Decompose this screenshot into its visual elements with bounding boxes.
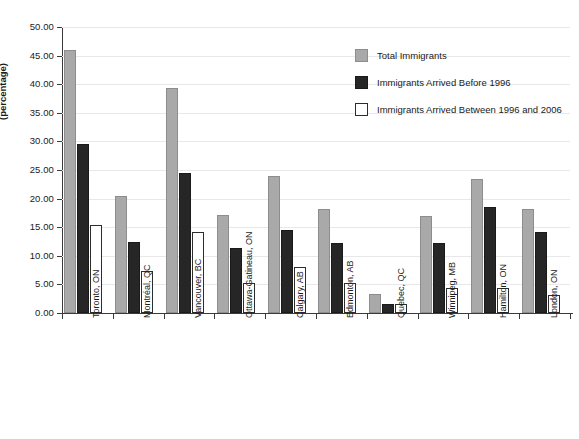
y-axis-tick-label: 30.00	[8, 135, 54, 146]
bar	[420, 216, 432, 313]
x-axis-tick-mark	[418, 313, 419, 319]
y-axis-tick-label: 20.00	[8, 193, 54, 204]
legend-swatch-icon	[355, 49, 368, 62]
x-axis-tick-mark	[468, 313, 469, 319]
y-axis-tick-label: 25.00	[8, 164, 54, 175]
x-axis-tick-mark	[113, 313, 114, 319]
y-axis-tick-label: 50.00	[8, 21, 54, 32]
bar	[166, 88, 178, 313]
bar-group	[268, 27, 306, 313]
bar	[179, 173, 191, 313]
x-axis-tick-label: London, ON	[549, 269, 559, 318]
x-axis-tick-label: Edmonton, AB	[345, 260, 355, 318]
legend-item-label: Total Immigrants	[377, 50, 447, 61]
bar	[268, 176, 280, 313]
x-axis-tick-mark	[367, 313, 368, 319]
bar	[535, 232, 547, 313]
x-axis-tick-label: Toronto, ON	[91, 269, 101, 318]
y-axis-tick-label: 0.00	[8, 307, 54, 318]
x-axis-tick-mark	[164, 313, 165, 319]
x-axis-tick-mark	[519, 313, 520, 319]
y-axis-title: (percentage)	[0, 63, 8, 120]
y-axis-tick-label: 45.00	[8, 50, 54, 61]
y-axis-tick-label: 10.00	[8, 250, 54, 261]
bar	[471, 179, 483, 313]
bar	[281, 230, 293, 314]
x-axis-tick-mark	[62, 313, 63, 319]
bar	[331, 243, 343, 313]
bar	[230, 248, 242, 313]
legend-item[interactable]: Total Immigrants	[355, 42, 562, 69]
legend-item[interactable]: Immigrants Arrived Between 1996 and 2006	[355, 96, 562, 123]
x-axis-tick-label: Montréal, QC	[142, 264, 152, 318]
legend-item-label: Immigrants Arrived Between 1996 and 2006	[377, 104, 562, 115]
x-axis-tick-mark	[265, 313, 266, 319]
x-axis-tick-mark	[316, 313, 317, 319]
x-axis-tick-label: Calgary, AB	[295, 271, 305, 318]
bar	[382, 304, 394, 313]
x-axis-tick-label: Ottawa-Gatineau, ON	[244, 231, 254, 318]
y-axis-tick-label: 15.00	[8, 221, 54, 232]
x-axis-tick-label: Winnipeg, MB	[447, 262, 457, 318]
bar	[522, 209, 534, 313]
chart-legend: Total ImmigrantsImmigrants Arrived Befor…	[355, 42, 562, 123]
bar	[217, 215, 229, 313]
bar	[77, 144, 89, 313]
legend-swatch-icon	[355, 103, 368, 116]
x-axis-line	[62, 313, 573, 314]
bar	[318, 209, 330, 313]
x-axis-tick-label: Vancouver, BC	[193, 259, 203, 318]
x-axis-tick-label: Quebec, QC	[396, 268, 406, 318]
bar	[369, 294, 381, 313]
y-axis-tick-label: 40.00	[8, 78, 54, 89]
y-axis-tick-label: 35.00	[8, 107, 54, 118]
bar	[128, 242, 140, 313]
bar-chart: (percentage) 0.005.0010.0015.0020.0025.0…	[0, 0, 579, 439]
bar	[484, 207, 496, 313]
y-axis-tick-label: 5.00	[8, 278, 54, 289]
legend-item[interactable]: Immigrants Arrived Before 1996	[355, 69, 562, 96]
bar	[64, 50, 76, 313]
x-axis-tick-label: Hamilton, ON	[498, 264, 508, 318]
bar	[433, 243, 445, 313]
legend-item-label: Immigrants Arrived Before 1996	[377, 77, 511, 88]
legend-swatch-icon	[355, 76, 368, 89]
x-axis-tick-mark	[570, 313, 571, 319]
x-axis-tick-mark	[214, 313, 215, 319]
bar	[115, 196, 127, 313]
